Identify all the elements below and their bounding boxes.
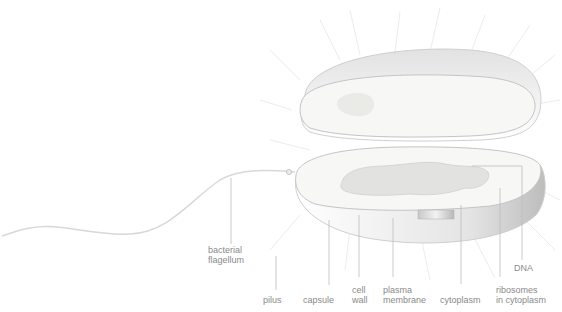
label-cytoplasm: cytoplasm [440,295,481,305]
label-plasma-membrane: plasma membrane [383,285,426,305]
label-capsule: capsule [303,295,334,305]
label-cell-wall: cell wall [352,285,368,305]
top-half-cell [300,49,541,141]
label-dna: DNA [514,263,533,273]
label-pilus: pilus [263,295,282,305]
label-bacterial-flagellum: bacterial flagellum [208,245,244,265]
label-ribosomes: ribosomes in cytoplasm [496,285,546,305]
bottom-half-cell [296,147,546,243]
cell-illustration [0,0,562,312]
bacterial-cell-diagram: bacterial flagellum pilus capsule cell w… [0,0,562,312]
cross-section-block [418,210,454,219]
flagellum [2,170,295,236]
